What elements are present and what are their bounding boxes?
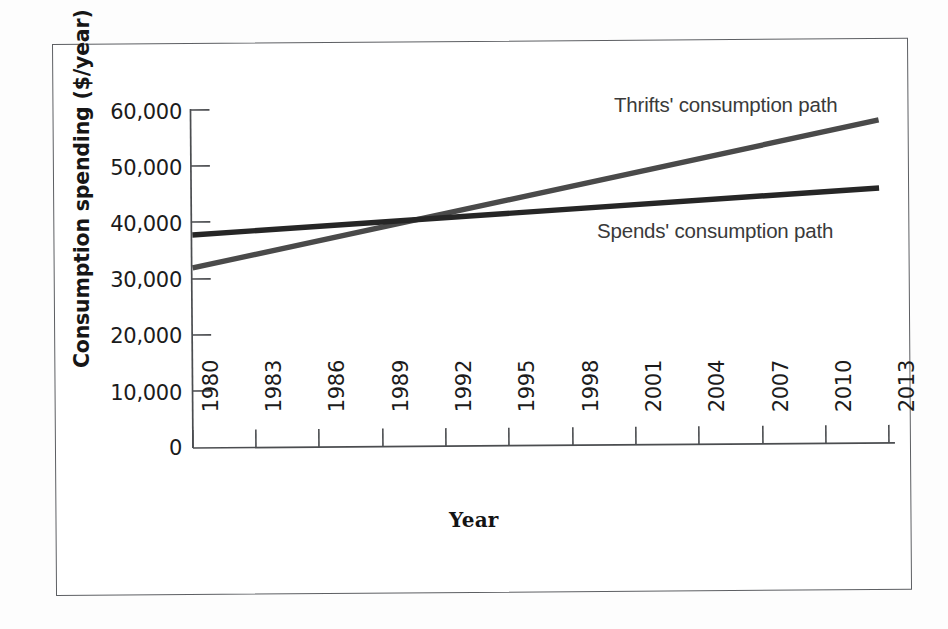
x-tick-label: 2004 <box>705 360 729 456</box>
series-annotation-spends: Spends' consumption path <box>597 219 833 243</box>
x-tick-label: 1995 <box>515 360 539 456</box>
x-tick-label: 1983 <box>262 360 286 456</box>
x-tick-label: 1980 <box>199 360 223 456</box>
x-axis-title: Year <box>449 508 499 532</box>
x-tick-label: 2001 <box>642 360 666 456</box>
plot-area: Consumption spending ($/year) 60,000 50,… <box>0 0 948 629</box>
x-tick-label: 2007 <box>769 360 793 456</box>
figure-root: Consumption spending ($/year) 60,000 50,… <box>0 0 948 629</box>
x-tick-label: 2013 <box>895 360 919 456</box>
x-tick-label: 1998 <box>579 360 603 456</box>
series-annotation-thrifts: Thrifts' consumption path <box>614 93 837 117</box>
x-tick-label: 1986 <box>325 360 349 456</box>
y-tick-marks <box>190 110 211 391</box>
x-tick-label: 1992 <box>452 360 476 456</box>
x-tick-label: 2010 <box>832 360 856 456</box>
x-tick-label: 1989 <box>389 360 413 456</box>
